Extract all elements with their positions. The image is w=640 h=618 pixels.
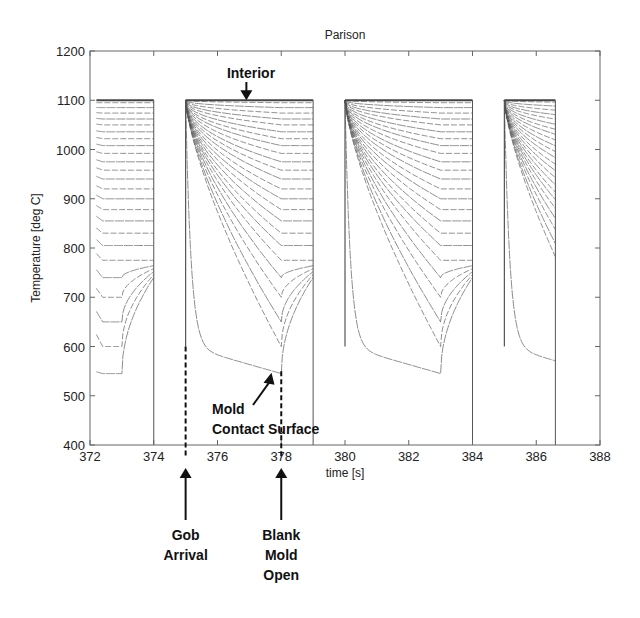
layer-curve: [186, 100, 314, 221]
x-tick-label: 374: [143, 449, 165, 464]
layer-curve: [96, 240, 153, 246]
layer-curve: [96, 269, 153, 298]
layer-curve: [96, 206, 153, 210]
x-axis-label: time [s]: [326, 466, 365, 480]
layer-curve: [96, 216, 153, 221]
layer-curve: [96, 160, 153, 162]
layer-curve: [96, 168, 153, 170]
chart-title: Parison: [325, 28, 366, 42]
layer-curve: [345, 100, 473, 125]
layer-curve: [96, 118, 153, 119]
layer-curve: [96, 228, 153, 233]
layer-curve: [96, 272, 153, 322]
y-tick-label: 900: [63, 192, 85, 207]
mold-contact-surface-label-text: Contact Surface: [212, 421, 320, 437]
x-tick-label: 382: [398, 449, 420, 464]
layer-curve: [186, 100, 314, 322]
y-tick-label: 1000: [56, 143, 85, 158]
blank-mold-open-arrow-head: [275, 468, 287, 478]
layer-curve: [96, 266, 153, 278]
layer-curve: [96, 186, 153, 189]
layer-curve: [186, 100, 314, 346]
layer-curve: [345, 100, 473, 322]
layer-curve: [96, 124, 153, 125]
layer-curve: [96, 144, 153, 145]
x-tick-label: 388: [589, 449, 611, 464]
layer-curve: [96, 131, 153, 132]
gob-arrival-label-text: Arrival: [163, 547, 207, 563]
mold-contact-arrow-head: [264, 373, 275, 385]
plot-lines: [96, 100, 555, 445]
y-axis-label: Temperature [deg C]: [29, 193, 43, 302]
mold-contact-arrow-shaft: [253, 381, 271, 405]
layer-curve: [186, 100, 314, 199]
layer-curve: [96, 138, 153, 139]
cycle-2: [345, 100, 473, 445]
x-tick-label: 386: [525, 449, 547, 464]
y-tick-label: 500: [63, 389, 85, 404]
layer-curve: [345, 100, 473, 346]
layer-curve: [96, 195, 153, 199]
y-tick-label: 800: [63, 241, 85, 256]
cycle-1: [186, 100, 314, 445]
interior-label-text: Interior: [227, 65, 276, 81]
gob-arrival-label-text: Gob: [172, 527, 200, 543]
blank-mold-open-label-text: Mold: [265, 547, 298, 563]
layer-curve: [504, 100, 555, 124]
layer-curve: [186, 100, 314, 125]
cycle-3: [504, 100, 555, 445]
layer-curve: [504, 100, 555, 199]
y-tick-label: 400: [63, 438, 85, 453]
layer-curve: [96, 176, 153, 179]
layer-curve: [96, 275, 153, 347]
y-tick-label: 700: [63, 290, 85, 305]
layer-curve: [96, 254, 153, 261]
gob-arrival-arrow-head: [180, 468, 192, 478]
blank-mold-open-label-text: Open: [263, 567, 299, 583]
x-tick-label: 376: [207, 449, 229, 464]
blank-mold-open-label-text: Blank: [262, 527, 300, 543]
interior-arrow-head: [240, 90, 252, 100]
chart: Parison 37237437637838038238438638840050…: [0, 0, 640, 618]
y-tick-label: 1100: [57, 93, 85, 108]
x-tick-label: 384: [462, 449, 484, 464]
layer-curve: [96, 278, 153, 374]
layer-curve: [504, 100, 555, 361]
layer-curve: [345, 100, 473, 221]
y-tick-label: 600: [63, 340, 85, 355]
y-tick-label: 1200: [56, 44, 85, 59]
x-tick-label: 380: [334, 449, 356, 464]
mold-contact-surface-label-text: Mold: [212, 401, 245, 417]
layer-curve: [345, 100, 473, 199]
layer-curve: [96, 152, 153, 154]
cycle-0: [96, 100, 153, 445]
